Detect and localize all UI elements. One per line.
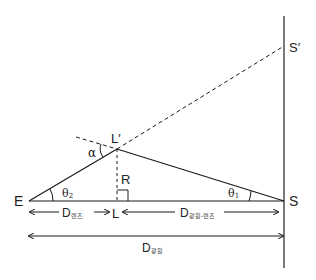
theta1-subscript: 1 (235, 192, 239, 200)
label-l: L (112, 206, 119, 221)
d-source-main: D (142, 241, 151, 255)
ray-lprime-to-s (117, 149, 284, 201)
d-lens-main: D (62, 206, 71, 220)
label-e: E (14, 193, 23, 209)
right-angle-marker (117, 190, 128, 201)
theta2-arc (50, 189, 53, 201)
theta1-arc (249, 191, 251, 201)
alpha-arc (100, 144, 103, 157)
label-s: S (289, 193, 298, 209)
label-l-prime: L′ (111, 131, 121, 146)
d-lens-subscript: 렌즈 (71, 212, 83, 219)
d-source-lens-main: D (180, 206, 189, 220)
label-alpha: α (88, 146, 96, 160)
label-theta1: θ1 (228, 187, 239, 200)
label-theta2: θ2 (62, 187, 73, 200)
d-source-subscript: 광원 (151, 247, 163, 254)
label-s-prime: S′ (289, 40, 301, 55)
label-d-lens: D렌즈 (62, 206, 83, 220)
theta2-subscript: 2 (69, 192, 73, 200)
label-d-source: D광원 (142, 241, 163, 255)
d-source-lens-subscript: 광원-렌즈 (189, 212, 215, 219)
dashed-ray-lprime-to-sprime (117, 46, 284, 149)
label-r: R (121, 172, 130, 187)
label-d-source-lens: D광원-렌즈 (180, 206, 215, 220)
lens-geometry-diagram: S′ L′ R E S L α θ2 θ1 D렌즈 D광원-렌즈 D광원 (0, 0, 316, 280)
